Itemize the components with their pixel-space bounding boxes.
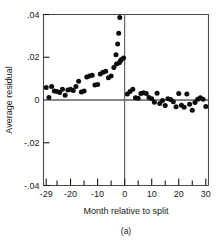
- data-point: [130, 87, 135, 92]
- y-tick-label: .02: [27, 52, 40, 62]
- data-point: [82, 89, 87, 94]
- data-point: [121, 56, 126, 61]
- data-point: [44, 85, 49, 90]
- y-tick-label: 0: [34, 95, 39, 105]
- axes-layer: [44, 15, 209, 186]
- data-point: [103, 69, 108, 74]
- data-point: [116, 31, 121, 36]
- labels-layer: .04.020-.02-.04-29-20-100102030Month rel…: [4, 10, 211, 236]
- x-tick-label: 20: [174, 189, 184, 199]
- data-point: [163, 103, 168, 108]
- data-points-layer: [44, 15, 209, 113]
- data-point: [109, 74, 114, 79]
- data-point: [176, 91, 181, 96]
- data-point: [90, 73, 95, 78]
- data-point: [49, 84, 54, 89]
- data-point: [73, 84, 78, 89]
- data-point: [60, 87, 65, 92]
- figure-caption: (a): [121, 226, 132, 236]
- data-point: [201, 97, 206, 102]
- data-point: [71, 88, 76, 93]
- data-point: [174, 104, 179, 109]
- data-point: [160, 98, 165, 103]
- figure-container: .04.020-.02-.04-29-20-100102030Month rel…: [0, 0, 221, 243]
- data-point: [113, 52, 118, 57]
- x-tick-label: 10: [147, 189, 157, 199]
- data-point: [76, 79, 81, 84]
- y-tick-label: -.04: [24, 181, 40, 191]
- x-tick-label: -20: [64, 189, 77, 199]
- data-point: [187, 102, 192, 107]
- scatter-chart: .04.020-.02-.04-29-20-100102030Month rel…: [0, 0, 221, 243]
- data-point: [182, 105, 187, 110]
- data-point: [117, 15, 122, 20]
- data-point: [46, 95, 51, 100]
- data-point: [152, 100, 157, 105]
- data-point: [115, 42, 120, 47]
- x-tick-label: -10: [91, 189, 104, 199]
- data-point: [95, 82, 100, 87]
- x-tick-label: 30: [201, 189, 211, 199]
- y-axis-title: Average residual: [4, 66, 14, 133]
- y-tick-label: -.02: [24, 138, 40, 148]
- data-point: [155, 91, 160, 96]
- data-point: [136, 96, 141, 101]
- data-point: [171, 99, 176, 104]
- data-point: [184, 92, 189, 97]
- data-point: [203, 104, 208, 109]
- y-tick-label: .04: [27, 10, 40, 20]
- data-point: [63, 93, 68, 98]
- data-point: [190, 108, 195, 113]
- x-axis-title: Month relative to split: [83, 206, 169, 216]
- x-tick-label: -29: [40, 189, 53, 199]
- x-tick-label: 0: [122, 189, 127, 199]
